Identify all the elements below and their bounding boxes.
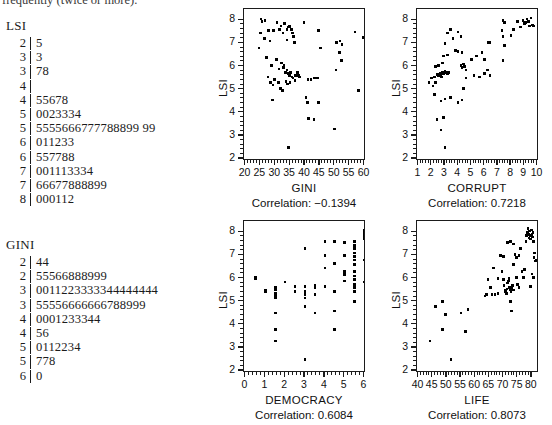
data-point	[485, 293, 488, 296]
x-tick-minor	[499, 160, 500, 163]
x-tick-minor	[473, 160, 474, 163]
x-tick-minor	[292, 160, 293, 163]
data-point	[304, 297, 307, 300]
stemleaf-row: 50112234	[4, 340, 158, 354]
y-tick-minor	[240, 148, 243, 149]
stemleaf-row: 6011233	[4, 135, 155, 149]
data-point	[291, 32, 294, 35]
plot-area: 2025303540455055602345678LSIGINICorrelat…	[205, 2, 377, 214]
x-tick-major	[474, 372, 475, 377]
y-axis-label: LSI	[390, 291, 402, 309]
stemleaf-row: 378	[4, 64, 155, 78]
data-point	[319, 47, 322, 50]
x-tick-minor	[471, 372, 472, 375]
x-tick-minor	[528, 160, 529, 163]
y-tick-minor	[240, 79, 243, 80]
data-points-layer	[417, 9, 537, 159]
data-point	[274, 297, 277, 300]
y-tick-label: 2	[390, 151, 408, 163]
y-tick-label: 2	[217, 151, 235, 163]
data-point	[487, 278, 490, 281]
stemleaf-gini-title: GINI	[4, 237, 158, 253]
x-tick-minor	[307, 372, 308, 375]
y-tick-minor	[413, 28, 416, 29]
y-tick-label: 3	[390, 340, 408, 352]
y-tick-label: 6	[217, 271, 235, 283]
x-tick-minor	[457, 372, 458, 375]
data-point	[441, 300, 444, 303]
data-point	[353, 300, 356, 303]
stemleaf-row: 4	[4, 79, 155, 93]
y-tick-major	[238, 42, 243, 43]
data-point	[304, 293, 307, 296]
x-tick-minor	[423, 372, 424, 375]
data-point	[444, 98, 447, 101]
y-tick-minor	[240, 249, 243, 250]
x-tick-minor	[292, 372, 293, 375]
x-tick-major	[259, 160, 260, 165]
x-tick-minor	[301, 160, 302, 163]
x-tick-label: 60	[349, 166, 379, 178]
stemleaf-leaf: 0023334	[31, 107, 81, 121]
stemleaf-row: 8000112	[4, 192, 155, 206]
y-tick-major	[238, 88, 243, 89]
x-tick-minor	[331, 372, 332, 375]
x-tick-minor	[268, 372, 269, 375]
data-point	[273, 78, 276, 81]
data-point	[521, 270, 524, 273]
y-tick-minor	[413, 23, 416, 24]
data-point	[481, 51, 484, 54]
x-tick-minor	[360, 160, 361, 163]
y-tick-label: 7	[390, 247, 408, 259]
data-point	[533, 252, 536, 255]
y-tick-label: 3	[390, 128, 408, 140]
y-tick-major	[411, 369, 416, 370]
x-tick-major	[417, 160, 418, 165]
y-tick-minor	[413, 365, 416, 366]
data-point	[460, 312, 463, 315]
x-tick-major	[318, 160, 319, 165]
y-tick-label: 8	[217, 224, 235, 236]
data-point	[532, 231, 535, 234]
y-tick-major	[411, 346, 416, 347]
stemleaf-stem: 6	[4, 135, 30, 149]
x-axis-label: CORRUPT	[378, 182, 552, 194]
data-point	[532, 240, 535, 243]
x-tick-major	[363, 372, 364, 377]
data-point	[449, 28, 452, 31]
plot-frame	[416, 8, 538, 160]
y-tick-minor	[413, 286, 416, 287]
scatter-panel-corrupt: 123456789102345678LSICORRUPTCorrelation:…	[378, 2, 550, 214]
data-point	[531, 273, 534, 276]
data-point	[278, 68, 281, 71]
y-tick-minor	[413, 139, 416, 140]
y-tick-minor	[240, 70, 243, 71]
y-tick-label: 6	[390, 59, 408, 71]
y-tick-minor	[240, 107, 243, 108]
stemleaf-leaf: 001113334	[31, 164, 93, 178]
y-axis-label: LSI	[217, 79, 229, 97]
stemleaf-stem: 4	[4, 93, 30, 107]
x-tick-major	[289, 160, 290, 165]
x-axis-label: GINI	[205, 182, 385, 194]
stemleaf-leaf: 5	[31, 36, 42, 50]
y-tick-major	[238, 231, 243, 232]
data-point	[353, 255, 356, 258]
y-tick-minor	[240, 356, 243, 357]
data-point	[333, 328, 336, 331]
data-point	[465, 69, 468, 72]
y-tick-minor	[413, 337, 416, 338]
x-tick-minor	[252, 372, 253, 375]
x-tick-minor	[494, 160, 495, 163]
stemleaf-row: 456	[4, 326, 158, 340]
x-tick-minor	[438, 160, 439, 163]
data-point	[274, 340, 277, 343]
data-point	[314, 312, 317, 315]
x-tick-minor	[359, 372, 360, 375]
data-point	[289, 81, 292, 84]
x-tick-minor	[335, 372, 336, 375]
y-tick-minor	[413, 263, 416, 264]
x-tick-minor	[519, 372, 520, 375]
plot-frame	[243, 220, 365, 372]
y-tick-minor	[413, 97, 416, 98]
